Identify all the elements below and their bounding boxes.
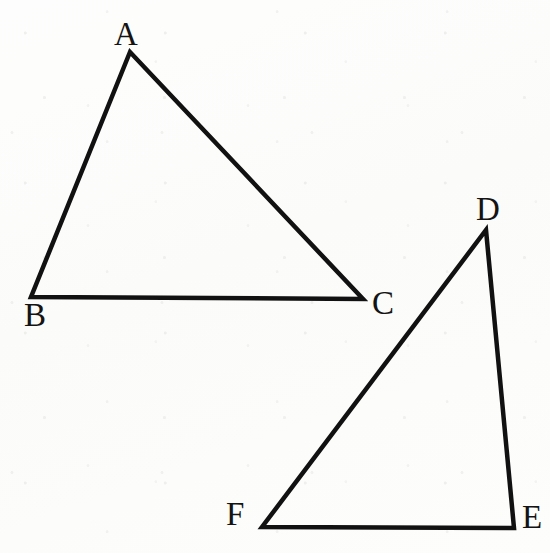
triangle-def xyxy=(262,230,514,528)
vertex-label-a: A xyxy=(114,18,138,51)
vertex-label-c: C xyxy=(372,287,394,320)
vertex-label-d: D xyxy=(476,193,500,226)
triangle-abc xyxy=(31,52,363,299)
triangles-svg xyxy=(0,0,550,553)
vertex-label-b: B xyxy=(24,299,46,332)
vertex-label-f: F xyxy=(226,498,244,531)
geometry-figure-canvas: A B C D E F xyxy=(0,0,550,553)
vertex-label-e: E xyxy=(522,501,542,534)
